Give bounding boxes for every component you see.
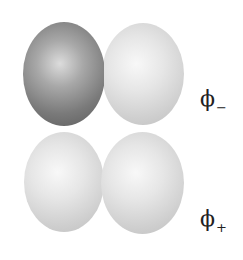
phi-plus-label: ϕ+	[200, 208, 227, 230]
left-lobe-dark-sphere	[23, 22, 104, 126]
left-lobe-clip	[23, 22, 104, 126]
phi-symbol: ϕ	[200, 206, 215, 231]
phi-symbol: ϕ	[200, 86, 215, 111]
left-lobe-light-sphere	[24, 132, 104, 232]
minus-subscript: −	[216, 100, 227, 115]
phi-minus-label: ϕ−	[200, 88, 227, 110]
right-lobe-light-sphere	[102, 23, 184, 125]
plus-subscript: +	[216, 220, 227, 235]
right-lobe-light-sphere	[101, 132, 184, 234]
